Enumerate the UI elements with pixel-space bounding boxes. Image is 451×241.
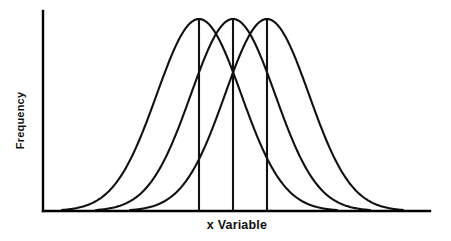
y-axis-label: Frequency [14,0,26,241]
plot-canvas [0,0,451,241]
x-axis-label: x Variable [43,218,431,232]
distribution-figure: Frequency x Variable [0,0,451,241]
